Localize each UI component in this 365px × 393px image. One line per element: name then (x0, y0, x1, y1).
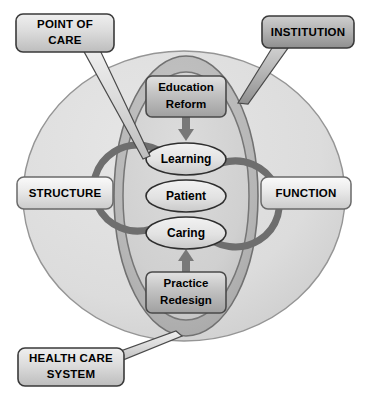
side-label-structure[interactable]: STRUCTURE (17, 177, 113, 209)
callout-point-of-care[interactable]: POINT OF CARE (16, 14, 114, 52)
box-education-reform[interactable]: Education Reform (146, 76, 226, 117)
core-ellipse-learning[interactable]: Learning (146, 143, 226, 175)
callout-point-of-care-line2: CARE (48, 34, 82, 46)
callout-institution-label: INSTITUTION (271, 26, 345, 38)
side-label-structure-text: STRUCTURE (29, 187, 102, 199)
side-label-function[interactable]: FUNCTION (261, 177, 351, 209)
callout-health-care-system-line2: SYSTEM (47, 368, 96, 380)
diagram-canvas: Learning Patient Caring Education Reform… (0, 0, 365, 393)
core-ellipse-patient-label: Patient (166, 189, 206, 203)
box-practice-redesign[interactable]: Practice Redesign (146, 272, 226, 313)
box-practice-redesign-line2: Redesign (160, 294, 212, 306)
core-ellipse-learning-label: Learning (161, 152, 212, 166)
side-label-function-text: FUNCTION (275, 187, 336, 199)
concept-diagram: Learning Patient Caring Education Reform… (0, 0, 365, 393)
core-ellipse-caring[interactable]: Caring (146, 217, 226, 249)
box-education-reform-line1: Education (158, 81, 214, 93)
box-education-reform-line2: Reform (166, 98, 206, 110)
box-practice-redesign-line1: Practice (164, 277, 209, 289)
core-ellipse-patient[interactable]: Patient (146, 180, 226, 212)
callout-health-care-system-line1: HEALTH CARE (29, 352, 113, 364)
core-ellipse-caring-label: Caring (167, 226, 205, 240)
callout-health-care-system[interactable]: HEALTH CARE SYSTEM (18, 348, 124, 386)
callout-institution[interactable]: INSTITUTION (262, 16, 354, 48)
callout-point-of-care-line1: POINT OF (37, 18, 93, 30)
